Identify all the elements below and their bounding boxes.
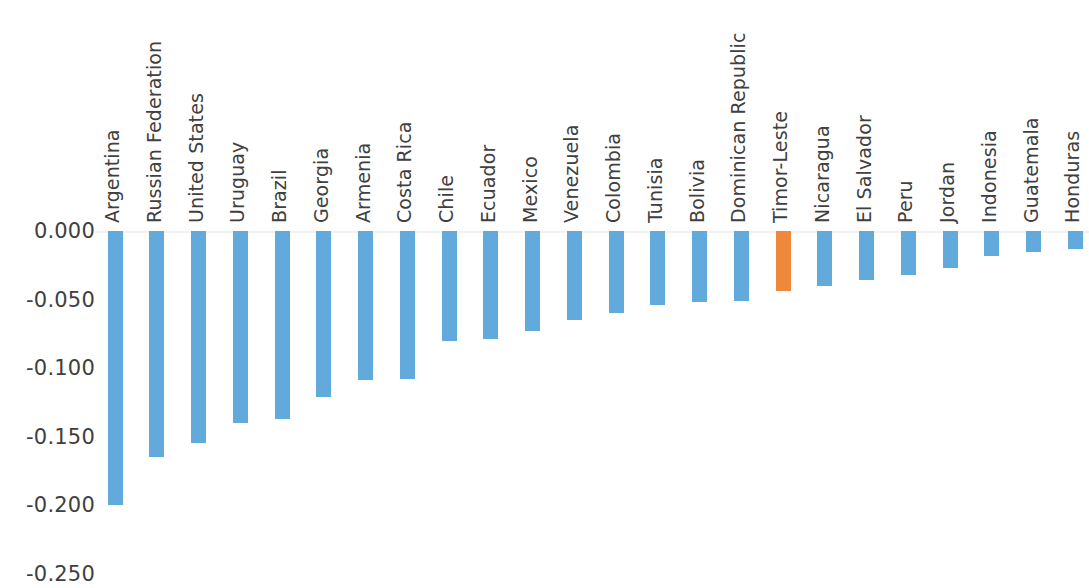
y-axis-tick-label: -0.250	[0, 562, 95, 586]
bar-chart: 0.000-0.050-0.100-0.150-0.200-0.250 Arge…	[0, 0, 1089, 588]
bar[interactable]	[316, 231, 331, 397]
y-axis-tick-label: -0.200	[0, 493, 95, 517]
x-axis-category-label: Venezuela	[562, 125, 581, 223]
bar[interactable]	[901, 231, 916, 275]
bar[interactable]	[275, 231, 290, 419]
x-axis-category-label: Costa Rica	[395, 122, 414, 224]
y-axis-tick-label: -0.100	[0, 356, 95, 380]
x-axis-category-label: Jordan	[938, 162, 957, 223]
bar[interactable]	[567, 231, 582, 320]
x-axis-category-label: Georgia	[312, 148, 331, 223]
bar[interactable]	[233, 231, 248, 423]
bar[interactable]	[943, 231, 958, 268]
bar[interactable]	[776, 231, 791, 291]
bar[interactable]	[483, 231, 498, 339]
plot-area	[95, 225, 1089, 588]
x-axis-category-label: Peru	[896, 180, 915, 223]
x-axis-category-label: Honduras	[1063, 131, 1082, 223]
x-axis-category-label: Nicaragua	[813, 125, 832, 223]
bar[interactable]	[650, 231, 665, 305]
x-axis-category-label: Indonesia	[980, 130, 999, 223]
bar[interactable]	[358, 231, 373, 380]
x-axis-category-label: Timor-Leste	[771, 111, 790, 223]
bar[interactable]	[692, 231, 707, 302]
x-axis-category-label: United States	[187, 93, 206, 223]
x-axis-category-label: Dominican Republic	[729, 32, 748, 223]
y-axis-tick-label: 0.000	[0, 219, 95, 243]
x-axis-category-label: Russian Federation	[145, 41, 164, 223]
x-axis-category-labels: ArgentinaRussian FederationUnited States…	[95, 0, 1089, 225]
bar[interactable]	[859, 231, 874, 280]
x-axis-category-label: Colombia	[604, 133, 623, 223]
bar[interactable]	[191, 231, 206, 443]
x-axis-category-label: El Salvador	[855, 115, 874, 223]
bar[interactable]	[400, 231, 415, 379]
bar[interactable]	[609, 231, 624, 313]
bar[interactable]	[442, 231, 457, 341]
x-axis-category-label: Bolivia	[688, 159, 707, 223]
x-axis-category-label: Uruguay	[228, 142, 247, 223]
x-axis-category-label: Tunisia	[646, 157, 665, 223]
bar[interactable]	[108, 231, 123, 505]
x-axis-category-label: Guatemala	[1022, 117, 1041, 223]
bar[interactable]	[817, 231, 832, 286]
bar[interactable]	[1026, 231, 1041, 252]
x-axis-category-label: Armenia	[354, 143, 373, 223]
bar[interactable]	[984, 231, 999, 256]
x-axis-category-label: Argentina	[103, 129, 122, 223]
bar[interactable]	[1068, 231, 1083, 249]
x-axis-category-label: Brazil	[270, 169, 289, 223]
y-axis-tick-label: -0.150	[0, 425, 95, 449]
y-axis-tick-label: -0.050	[0, 288, 95, 312]
x-axis-category-label: Mexico	[521, 156, 540, 223]
bar[interactable]	[149, 231, 164, 457]
x-axis-category-label: Chile	[437, 175, 456, 223]
bar[interactable]	[734, 231, 749, 301]
bar[interactable]	[525, 231, 540, 331]
x-axis-category-label: Ecuador	[479, 145, 498, 223]
